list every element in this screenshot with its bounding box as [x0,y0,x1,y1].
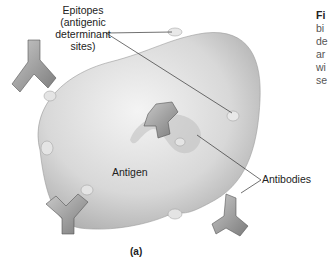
caption-line: ar [316,48,328,61]
caption-line: wi [316,61,328,74]
antigen-label: Antigen [112,166,148,178]
figure-caption-fragment: Fi bi de ar wi se [316,9,328,87]
caption-line: bi [316,22,328,35]
leader-line [241,180,261,193]
caption-title: Fi [316,9,328,22]
caption-line: se [316,74,328,87]
caption-line: de [316,35,328,48]
epitope-bump [44,91,56,101]
antibodies-label: Antibodies [262,173,311,185]
epitope-bump [175,138,185,146]
epitopes-label: Epitopes (antigenic determinant sites) [50,4,116,52]
epitope-bump [81,185,93,195]
antibody-shape [212,194,248,236]
epitope-bump [227,111,239,121]
epitope-bump [168,209,182,219]
panel-label: (a) [130,246,142,257]
epitope-bump [41,141,53,155]
